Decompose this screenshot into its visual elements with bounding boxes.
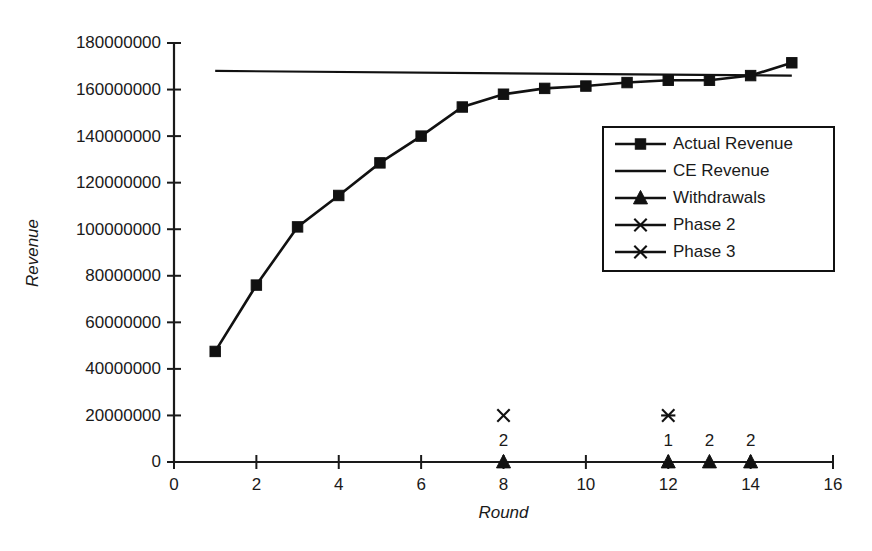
y-tick-label: 180000000 <box>76 33 161 52</box>
x-tick-label: 10 <box>576 475 595 494</box>
legend-label: Actual Revenue <box>673 134 793 153</box>
series-actual-revenue-square-marker <box>457 102 467 112</box>
y-tick-label: 140000000 <box>76 127 161 146</box>
x-tick-label: 12 <box>659 475 678 494</box>
x-tick-label: 16 <box>824 475 843 494</box>
y-tick-label: 100000000 <box>76 220 161 239</box>
y-axis-title: Revenue <box>23 219 42 287</box>
series-actual-revenue-square-marker <box>334 190 344 200</box>
revenue-chart: 0200000004000000060000000800000001000000… <box>0 0 872 551</box>
series-actual-revenue-square-marker <box>663 75 673 85</box>
legend-label: CE Revenue <box>673 161 769 180</box>
y-tick-label: 160000000 <box>76 80 161 99</box>
series-actual-revenue-square-marker <box>704 75 714 85</box>
series-actual-revenue-square-marker <box>292 222 302 232</box>
legend-label: Phase 3 <box>673 242 735 261</box>
point-label-withdrawals: 2 <box>746 431 755 450</box>
x-tick-label: 4 <box>334 475 343 494</box>
series-actual-revenue-square-marker <box>210 346 220 356</box>
y-tick-label: 0 <box>152 452 161 471</box>
y-tick-label: 120000000 <box>76 173 161 192</box>
x-tick-label: 0 <box>169 475 178 494</box>
x-axis-title: Round <box>478 503 529 522</box>
legend-label: Withdrawals <box>673 188 766 207</box>
y-tick-label: 60000000 <box>85 313 161 332</box>
series-actual-revenue-square-marker <box>787 58 797 68</box>
series-actual-revenue-square-marker <box>581 81 591 91</box>
x-tick-label: 2 <box>252 475 261 494</box>
legend-label: Phase 2 <box>673 215 735 234</box>
y-tick-label: 80000000 <box>85 266 161 285</box>
series-actual-revenue-square-marker <box>416 131 426 141</box>
y-tick-label: 40000000 <box>85 359 161 378</box>
chart-legend: Actual RevenueCE RevenueWithdrawalsPhase… <box>603 127 834 271</box>
series-actual-revenue-square-marker <box>498 89 508 99</box>
x-tick-label: 14 <box>741 475 760 494</box>
point-label-withdrawals: 1 <box>664 431 673 450</box>
x-tick-label: 8 <box>499 475 508 494</box>
x-tick-label: 6 <box>416 475 425 494</box>
series-actual-revenue-square-marker <box>375 158 385 168</box>
point-label-withdrawals: 2 <box>499 431 508 450</box>
series-actual-revenue-square-marker <box>539 83 549 93</box>
series-actual-revenue-square-marker <box>251 280 261 290</box>
chart-canvas: 0200000004000000060000000800000001000000… <box>0 0 872 551</box>
point-label-withdrawals: 2 <box>705 431 714 450</box>
y-tick-label: 20000000 <box>85 406 161 425</box>
legend-square-marker <box>635 139 645 149</box>
series-actual-revenue-square-marker <box>622 77 632 87</box>
